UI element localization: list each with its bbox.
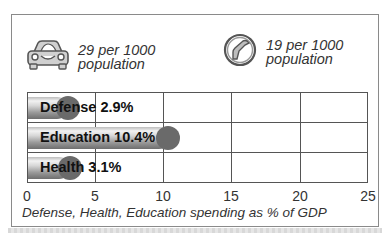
bar-cap-education — [156, 126, 180, 150]
stat-telephones: 19 per 1000 population — [222, 32, 343, 72]
row-divider — [28, 122, 367, 123]
x-tick-0: 0 — [23, 188, 31, 204]
x-tick-10: 10 — [155, 188, 171, 204]
car-icon — [26, 40, 70, 74]
telephones-stat-text: 19 per 1000 population — [266, 38, 343, 66]
bar-label-health: Health 3.1% — [40, 159, 121, 175]
telephone-icon — [222, 32, 258, 72]
x-tick-20: 20 — [292, 188, 308, 204]
x-tick-5: 5 — [91, 188, 99, 204]
x-tick-25: 25 — [360, 188, 376, 204]
bar-label-education: Education 10.4% — [40, 129, 155, 145]
chart-caption: Defense, Health, Education spending as %… — [22, 205, 327, 220]
stat-cars: 29 per 1000 population — [26, 40, 155, 74]
gridline-15 — [231, 93, 232, 182]
bottom-shadow — [8, 228, 382, 233]
bar-label-defense: Defense 2.9% — [40, 99, 134, 115]
x-tick-15: 15 — [223, 188, 239, 204]
cars-stat-text: 29 per 1000 population — [78, 43, 155, 71]
row-divider — [28, 152, 367, 153]
bar-chart-plot: Defense 2.9% Education 10.4% Health 3.1% — [27, 92, 368, 183]
gridline-20 — [300, 93, 301, 182]
